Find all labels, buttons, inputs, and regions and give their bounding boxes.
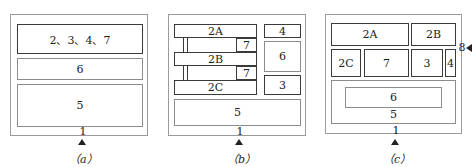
box-3: 3 [264,75,301,95]
box-label: 2A [363,28,378,41]
box-6: 6 [17,58,143,80]
box-label: 7 [243,39,250,52]
box-2b: 2B [411,23,456,46]
arrow-up-icon [391,139,399,145]
box-label: 5 [234,106,241,119]
box-label: 2B [208,53,223,66]
arrow-up-icon [235,139,243,145]
box-label: 4 [447,57,454,70]
caption-b: （b） [227,150,256,166]
box-label: 4 [279,25,286,38]
box-label: 2A [208,25,223,38]
box-label: 2B [426,28,441,41]
box-label: 2、3、4、7 [50,31,111,47]
box-6: 6 [345,87,442,108]
box-label: 6 [279,50,286,63]
frame-label-1: 1 [391,125,401,136]
box-2-3-4-7: 2、3、4、7 [17,24,143,54]
caption-c: （c） [383,150,411,166]
box-3: 3 [411,49,443,77]
connector-line [187,66,188,80]
frame-label-1: 1 [78,126,88,137]
box-label: 7 [243,67,250,80]
arrow-left-icon [466,44,472,52]
side-label-8: 8 [458,42,466,53]
box-label: 2C [338,57,353,70]
box-7-lower: 7 [236,66,257,80]
box-5: 5 [174,99,301,126]
box-2a: 2A [174,24,257,38]
box-label: 7 [383,57,390,70]
box-5: 5 [17,84,143,127]
box-6: 6 [264,41,301,72]
box-7: 7 [364,49,409,77]
box-7-upper: 7 [236,38,257,52]
box-2b: 2B [174,52,257,66]
caption-a: （a） [69,150,98,166]
box-4: 4 [445,49,456,77]
box-label: 2C [208,81,223,94]
connector-line [187,38,188,52]
connector-line [236,38,237,52]
box-2c: 2C [331,49,361,77]
box-label: 3 [279,79,286,92]
box-label: 5 [390,108,397,121]
box-label: 3 [424,57,431,70]
box-label: 5 [77,99,84,112]
box-2c: 2C [174,80,257,95]
frame-label-1: 1 [235,126,245,137]
connector-line [183,66,184,80]
box-2a: 2A [331,23,409,46]
arrow-up-icon [78,139,86,145]
box-4: 4 [264,24,301,38]
connector-line [183,38,184,52]
box-label: 6 [390,91,397,104]
box-label: 6 [77,63,84,76]
